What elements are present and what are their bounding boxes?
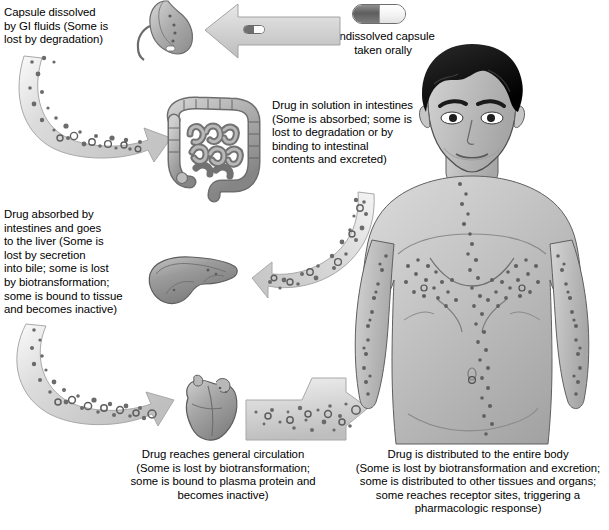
arrow-left-icon xyxy=(205,2,340,62)
mini-capsule-icon xyxy=(243,25,265,34)
heart-icon xyxy=(176,374,248,446)
human-body-icon xyxy=(338,44,606,444)
diagram-canvas: Capsule dissolved by GI fluids (Some is … xyxy=(0,0,609,530)
curved-arrow-liver-to-heart-icon xyxy=(4,318,176,430)
label-drug-absorbed-liver: Drug absorbed by intestines and goes to … xyxy=(4,208,144,317)
label-general-circulation: Drug reaches general circulation (Some i… xyxy=(78,448,368,502)
capsule-icon xyxy=(352,4,406,24)
label-entire-body: Drug is distributed to the entire body (… xyxy=(348,448,608,516)
liver-icon xyxy=(146,254,240,312)
